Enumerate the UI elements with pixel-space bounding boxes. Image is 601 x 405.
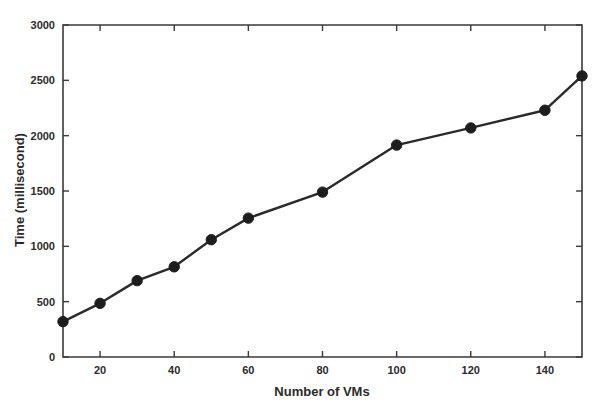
data-point-marker	[540, 105, 550, 115]
x-tick-label: 20	[94, 364, 106, 376]
data-point-marker	[58, 316, 68, 326]
x-tick-label: 60	[242, 364, 254, 376]
data-point-marker	[243, 213, 253, 223]
x-tick-label: 80	[316, 364, 328, 376]
data-point-marker	[169, 262, 179, 272]
y-tick-label: 0	[49, 351, 55, 363]
data-point-marker	[206, 234, 216, 244]
y-tick-label: 1000	[31, 240, 55, 252]
data-point-marker	[466, 123, 476, 133]
y-tick-label: 1500	[31, 185, 55, 197]
x-tick-label: 120	[462, 364, 480, 376]
chart-canvas: 050010001500200025003000 204060801001201…	[0, 0, 601, 405]
x-axis-title: Number of VMs	[274, 384, 369, 399]
data-point-marker	[132, 275, 142, 285]
line-chart: 050010001500200025003000 204060801001201…	[0, 0, 601, 405]
y-tick-label: 3000	[31, 19, 55, 31]
x-tick-label: 40	[168, 364, 180, 376]
y-tick-label: 2500	[31, 74, 55, 86]
data-point-marker	[317, 187, 327, 197]
y-tick-label: 2000	[31, 130, 55, 142]
chart-background	[0, 0, 601, 405]
y-tick-label: 500	[37, 296, 55, 308]
data-point-marker	[391, 140, 401, 150]
data-point-marker	[577, 71, 587, 81]
x-tick-label: 140	[536, 364, 554, 376]
data-point-marker	[95, 298, 105, 308]
x-tick-label: 100	[387, 364, 405, 376]
y-axis-title: Time (millisecond)	[12, 133, 27, 247]
